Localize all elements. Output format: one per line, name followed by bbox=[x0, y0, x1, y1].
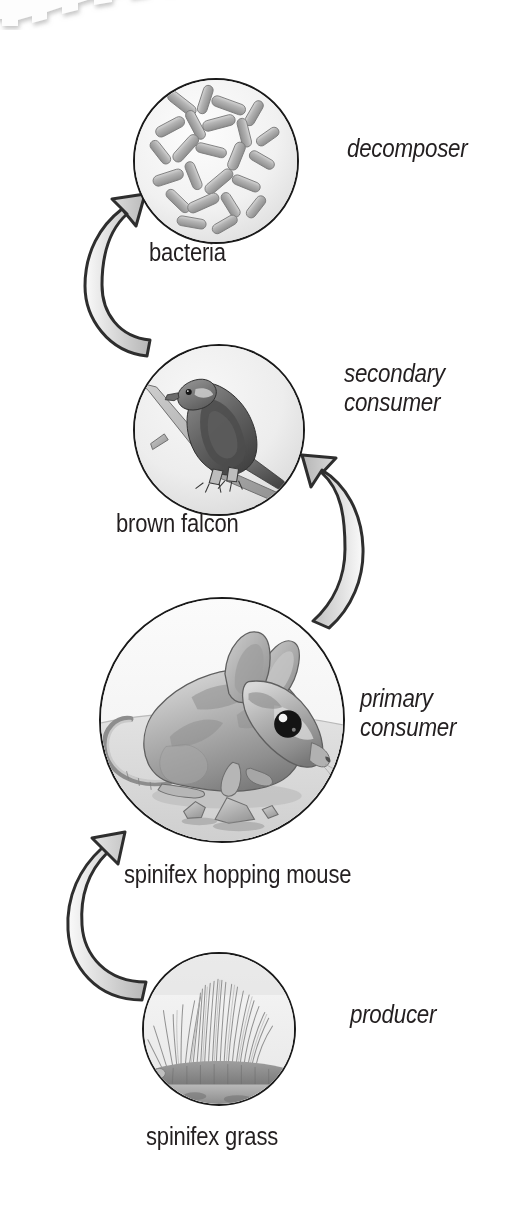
spinifex-hopping-mouse-species-label: spinifex hopping mouse bbox=[124, 860, 351, 889]
arrow-mouse-to-falcon bbox=[302, 455, 363, 628]
bacteria-illustration-disc bbox=[133, 78, 299, 244]
brown-falcon-species-label: brown falcon bbox=[116, 509, 239, 538]
mouse-role-line2: consumer bbox=[360, 713, 456, 742]
arrow-grass-to-mouse bbox=[68, 832, 146, 1000]
brown-falcon-role-label: secondary consumer bbox=[344, 359, 445, 417]
bacteria-species-label: bacteria bbox=[149, 238, 226, 267]
food-chain-diagram: bacteria decomposer bbox=[0, 0, 514, 1206]
spinifex-grass-illustration-disc bbox=[142, 952, 296, 1106]
bacteria-role-label: decomposer bbox=[347, 134, 467, 163]
brown-falcon-role-line2: consumer bbox=[344, 388, 445, 417]
mouse-role-line1: primary bbox=[360, 684, 456, 713]
brown-falcon-illustration-disc bbox=[133, 344, 305, 516]
spinifex-grass-role-label: producer bbox=[350, 1000, 436, 1029]
arrow-falcon-to-bacteria bbox=[85, 194, 150, 356]
spinifex-hopping-mouse-illustration-disc bbox=[99, 597, 345, 843]
spinifex-hopping-mouse-role-label: primary consumer bbox=[360, 684, 456, 742]
brown-falcon-role-line1: secondary bbox=[344, 359, 445, 388]
spinifex-grass-species-label: spinifex grass bbox=[146, 1122, 278, 1151]
